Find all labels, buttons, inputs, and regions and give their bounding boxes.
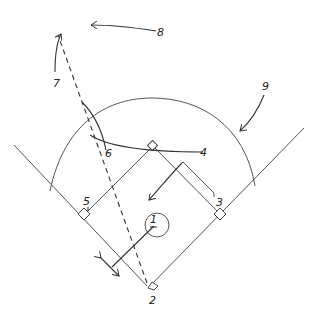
label-left-fielder: 7 [53, 77, 60, 90]
catcher-line [112, 226, 154, 267]
label-third-baseman: 5 [83, 195, 90, 208]
home-plate [148, 282, 158, 290]
label-shortstop: 6 [105, 147, 112, 160]
label-right-fielder: 9 [262, 80, 269, 93]
label-pitcher: 1 [150, 213, 157, 226]
catcher-double-arrow [101, 258, 119, 276]
label-first-baseman: 3 [216, 196, 223, 209]
shortstop-path [82, 102, 106, 150]
label-center-fielder: 8 [157, 26, 164, 39]
second-to-first-line [153, 146, 220, 214]
pitchers-mound [145, 213, 169, 237]
left-fielder-arrow [55, 34, 61, 72]
label-catcher: 2 [149, 294, 156, 307]
baseball-field-diagram: 1 2 3 4 5 6 7 8 9 [0, 0, 324, 318]
right-fielder-arrow [240, 95, 264, 131]
label-second-baseman: 4 [200, 146, 207, 159]
center-fielder-arrow [91, 25, 156, 31]
infield-arrow [149, 163, 182, 200]
